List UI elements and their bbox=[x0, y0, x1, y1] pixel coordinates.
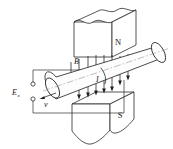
terminal-upper[interactable] bbox=[31, 82, 35, 86]
terminal-lower[interactable] bbox=[31, 97, 35, 101]
physics-figure: N S Ex bbox=[0, 0, 173, 149]
north-pole-label: N bbox=[115, 37, 121, 47]
emf-label: Ex bbox=[11, 88, 20, 98]
figure-canvas: N S Ex bbox=[0, 0, 173, 149]
north-magnet-front-face bbox=[74, 22, 112, 57]
current-label-I: I bbox=[95, 75, 99, 84]
south-pole-label: S bbox=[118, 110, 123, 120]
emf-label-main: E bbox=[11, 88, 17, 97]
emf-label-subscript: x bbox=[16, 93, 20, 98]
field-label-B: B bbox=[74, 57, 79, 66]
velocity-label-v: v bbox=[44, 100, 48, 109]
north-pole-magnet: N bbox=[74, 8, 136, 57]
south-pole-magnet: S bbox=[72, 92, 134, 144]
south-magnet-front-face bbox=[72, 104, 110, 144]
